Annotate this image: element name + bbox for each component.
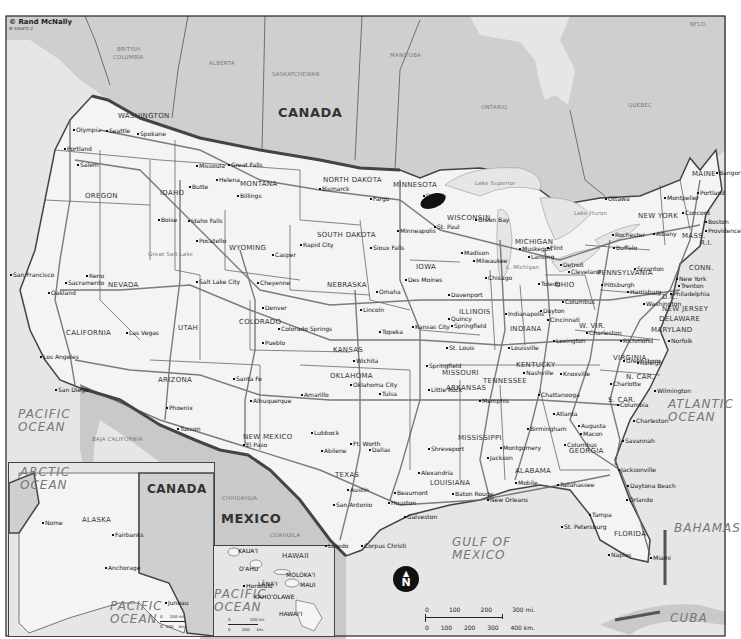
city-label-savannah: Savannah (622, 438, 655, 444)
city-label-charleston: Charleston (633, 418, 668, 424)
city-label-buffalo: Buffalo (613, 245, 637, 251)
city-label-corpus-christi: Corpus Christi (361, 543, 406, 549)
state-label-conn: CONN. (689, 265, 714, 272)
city-label-rapid-city: Rapid City (300, 242, 334, 248)
city-name: Madison (464, 249, 489, 256)
city-label-springfield: Springfield (451, 323, 486, 329)
city-label-reno: Reno (86, 273, 104, 279)
city-label-houston: Houston (388, 500, 416, 506)
city-name: Nome (45, 519, 63, 526)
city-name: Beaumont (397, 489, 428, 496)
city-label-los-angeles: Los Angeles (40, 354, 79, 360)
city-name: Savannah (625, 437, 655, 444)
city-label-columbia: Columbia (617, 402, 648, 408)
city-name: Green Bay (478, 216, 509, 223)
city-label-bangor: Bangor (716, 170, 741, 176)
city-dot-icon (243, 444, 245, 446)
city-label-butte: Butte (189, 184, 208, 190)
city-dot-icon (627, 485, 629, 487)
city-label-oklahoma-city: Oklahoma City (350, 382, 397, 388)
scale-km-4: 400 km. (510, 624, 535, 631)
city-label-green-bay: Green Bay (475, 217, 509, 223)
city-name: Indianapolis (508, 310, 544, 317)
state-label-tennessee: TENNESSEE (483, 378, 527, 385)
island-label-kaho-olawe: KAHO'OLAWE (254, 594, 295, 600)
city-dot-icon (553, 413, 555, 415)
city-label-minneapolis: Minneapolis (397, 228, 436, 234)
city-dot-icon (64, 148, 66, 150)
city-label-tulsa: Tulsa (379, 391, 397, 397)
city-label-birmingham: Birmingham (527, 426, 567, 432)
city-dot-icon (278, 328, 280, 330)
city-dot-icon (617, 404, 619, 406)
city-label-madison: Madison (461, 250, 489, 256)
island-label-l-na-i: LĀNA'I (258, 581, 277, 587)
city-name: Lexington (556, 337, 585, 344)
city-name: Augusta (581, 422, 606, 429)
city-label-raleigh: Raleigh (637, 360, 662, 366)
city-label-sioux-falls: Sioux Falls (370, 245, 404, 251)
island-label-hawai-i: HAWAI'I (279, 611, 302, 617)
province-label-nfld: NFLD. (690, 22, 707, 28)
city-dot-icon (105, 567, 107, 569)
city-dot-icon (705, 221, 707, 223)
scale-mi-3: 300 mi. (512, 606, 535, 613)
city-name: Wilmington (657, 387, 691, 394)
hawaii-scale-bar: 0 100 mi. 0 100 km. (228, 617, 273, 635)
city-name: Albany (656, 230, 677, 237)
city-name: Salem (80, 161, 99, 168)
city-label-bismarck: Bismarck (319, 186, 350, 192)
city-dot-icon (670, 293, 672, 295)
city-label-tampa: Tampa (589, 512, 612, 518)
city-dot-icon (370, 198, 372, 200)
water-label-pacific-ocean: PACIFIC OCEAN (110, 600, 163, 625)
state-label-missouri: MISSOURI (442, 370, 479, 377)
city-name: Nashville (526, 369, 553, 376)
city-label-davenport: Davenport (448, 292, 483, 298)
city-name: San Antonio (336, 501, 372, 508)
city-label-kansas-city: Kansas City (412, 324, 450, 330)
city-dot-icon (325, 545, 327, 547)
state-label-alabama: ALABAMA (515, 468, 551, 475)
state-label-new-york: NEW YORK (638, 213, 678, 220)
city-dot-icon (560, 373, 562, 375)
city-label-jackson: Jackson (487, 455, 513, 461)
city-dot-icon (553, 340, 555, 342)
city-label-providence: Providence (705, 228, 741, 234)
water-label-bahamas: BAHAMAS (674, 522, 741, 535)
city-dot-icon (452, 493, 454, 495)
city-dot-icon (418, 472, 420, 474)
north-arrow-icon: ▲N (393, 566, 419, 592)
city-label-flint: Flint (547, 245, 563, 251)
city-label-san-francisco: San Francisco (10, 272, 54, 278)
city-dot-icon (568, 271, 570, 273)
city-dot-icon (257, 282, 259, 284)
city-dot-icon (137, 133, 139, 135)
city-label-casper: Casper (272, 252, 296, 258)
province-label-ontario: ONTARIO (481, 105, 507, 111)
city-name: Great Falls (231, 161, 263, 168)
city-label-pueblo: Pueblo (262, 340, 285, 346)
lake-label-lake-superior: Lake Superior (475, 181, 515, 187)
city-dot-icon (697, 192, 699, 194)
city-label-scranton: Scranton (634, 266, 664, 272)
city-label-oakland: Oakland (48, 290, 76, 296)
city-dot-icon (560, 264, 562, 266)
scale-km-1: 100 (441, 624, 452, 631)
alaska-scale-km-2: km. (179, 624, 186, 629)
city-dot-icon (55, 389, 57, 391)
state-label-oklahoma: OKLAHOMA (330, 373, 373, 380)
city-dot-icon (353, 360, 355, 362)
city-dot-icon (705, 230, 707, 232)
city-label-richmond: Richmond (620, 338, 653, 344)
city-dot-icon (237, 195, 239, 197)
city-dot-icon (189, 186, 191, 188)
city-name: Macon (583, 430, 603, 437)
city-name: Norfolk (671, 337, 693, 344)
city-label-charleston: Charleston (586, 330, 621, 336)
city-label-lexington: Lexington (553, 338, 585, 344)
city-label-spokane: Spokane (137, 131, 166, 137)
city-label-mobile: Mobile (515, 480, 538, 486)
city-name: Trenton (681, 282, 703, 289)
city-name: Lubbock (314, 429, 339, 436)
